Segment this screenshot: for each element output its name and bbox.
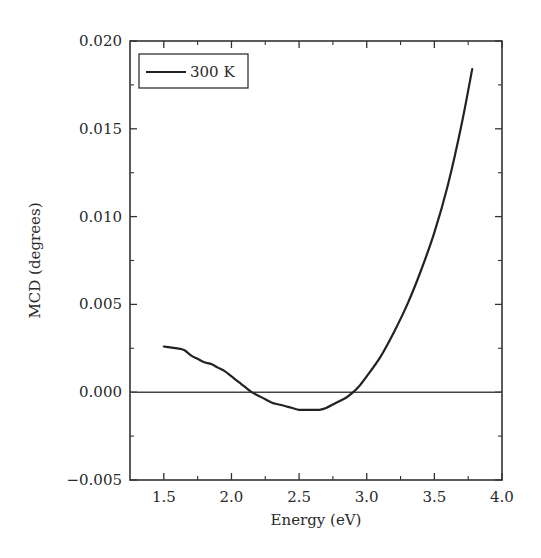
legend: 300 K [139,54,248,88]
x-axis-ticks: 1.52.02.53.03.54.0 [152,41,514,506]
legend-label: 300 K [190,63,235,81]
x-tick-label: 1.5 [152,488,176,506]
y-axis-title: MCD (degrees) [26,202,44,318]
x-tick-label: 2.0 [220,488,244,506]
mcd-chart: 1.52.02.53.03.54.0 −0.0050.0000.0050.010… [0,0,541,558]
x-tick-label: 3.0 [355,488,379,506]
series-line-300k [164,69,472,410]
y-tick-label: −0.005 [66,471,122,489]
axes-border [130,41,502,480]
y-tick-label: 0.015 [79,120,122,138]
x-tick-label: 4.0 [490,488,514,506]
y-axis-ticks: −0.0050.0000.0050.0100.0150.020 [66,32,502,489]
y-tick-label: 0.010 [79,208,122,226]
x-tick-label: 2.5 [287,488,311,506]
y-tick-label: 0.000 [79,383,122,401]
plot-frame [130,41,502,480]
y-tick-label: 0.020 [79,32,122,50]
x-tick-label: 3.5 [422,488,446,506]
y-tick-label: 0.005 [79,295,122,313]
x-axis-title: Energy (eV) [271,511,362,529]
